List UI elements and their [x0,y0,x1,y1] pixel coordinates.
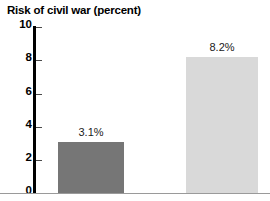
y-tick-label-10: 10 [19,19,32,31]
bar-value-label-2: 8.2% [186,41,258,53]
y-tick-label-8: 8 [26,52,32,64]
bar-chart: Risk of civil war (percent) 10 8 6 4 2 0 [0,0,270,201]
y-tick-mark-10 [36,27,42,28]
y-axis-line [33,26,36,194]
bar-series-2 [186,57,258,193]
y-tick-mark-8 [36,60,42,61]
y-tick-mark-6 [36,94,42,95]
y-tick-label-0: 0 [26,185,32,197]
y-tick-mark-2 [36,160,42,161]
y-tick-label-4: 4 [26,119,32,131]
y-tick-mark-4 [36,127,42,128]
bar-value-label-1: 3.1% [58,126,124,138]
baseline-rule [0,193,270,194]
y-tick-label-2: 2 [26,152,32,164]
bar-series-1 [58,142,124,193]
y-tick-label-6: 6 [26,86,32,98]
plot-area: 10 8 6 4 2 0 3.1% 8.2% [0,0,270,201]
